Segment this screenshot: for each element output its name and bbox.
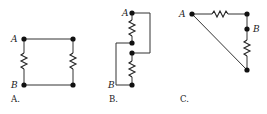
- node-label-a: A: [121, 8, 129, 18]
- resistor-icon: [70, 53, 76, 69]
- node-label-b: B: [107, 80, 115, 90]
- circuit-c: A B C.: [178, 9, 260, 104]
- circuit-b: A B B.: [107, 8, 150, 104]
- circuit-figure: A B A. A B B. A B: [0, 0, 267, 114]
- caption-a: A.: [10, 94, 20, 104]
- resistor-icon: [21, 53, 27, 69]
- node-label-b: B: [10, 80, 18, 90]
- node-label-a: A: [10, 34, 18, 44]
- resistor-icon: [129, 20, 135, 36]
- resistor-icon: [212, 11, 228, 17]
- resistor-icon: [129, 61, 135, 77]
- node-label-a: A: [178, 9, 186, 19]
- resistor-icon: [244, 40, 250, 56]
- caption-b: B.: [109, 94, 118, 104]
- caption-c: C.: [180, 94, 189, 104]
- node-label-b: B: [252, 24, 260, 34]
- circuit-a: A B A.: [10, 34, 76, 104]
